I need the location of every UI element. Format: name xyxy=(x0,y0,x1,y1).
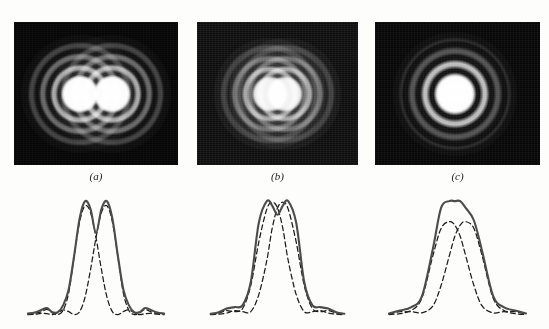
photograph-row: (a) (b) (c) xyxy=(0,0,549,190)
sum-curve xyxy=(389,201,526,314)
intensity-plot-a xyxy=(14,190,178,329)
airy-disk-merged xyxy=(393,32,517,156)
panel-caption-a: (a) xyxy=(14,168,178,184)
panel-caption-b: (b) xyxy=(197,168,358,184)
figure-resolution-of-two-point-sources: (a) (b) (c) xyxy=(0,0,549,329)
intensity-plot-b xyxy=(197,190,358,329)
component-curve-1 xyxy=(211,202,345,314)
component-curve-1 xyxy=(28,205,164,314)
profile-svg-b xyxy=(197,190,358,329)
diffraction-plate-c xyxy=(375,22,540,165)
component-curve-2 xyxy=(389,222,526,315)
diffraction-plate-a xyxy=(14,22,178,165)
intensity-profile-row xyxy=(0,190,549,329)
profile-svg-a xyxy=(14,190,178,329)
diffraction-plate-b xyxy=(197,22,358,165)
component-curve-2 xyxy=(211,202,345,314)
photo-panel-b xyxy=(197,22,358,165)
airy-disk-right xyxy=(229,38,341,150)
photo-panel-c xyxy=(375,22,540,165)
photo-panel-a xyxy=(14,22,178,165)
sum-curve xyxy=(211,200,345,313)
component-curve-1 xyxy=(389,222,526,315)
component-curve-2 xyxy=(28,205,164,314)
profile-svg-c xyxy=(375,190,540,329)
panel-caption-c: (c) xyxy=(375,168,540,184)
airy-disk-right xyxy=(53,35,171,153)
intensity-plot-c xyxy=(375,190,540,329)
sum-curve xyxy=(28,201,164,314)
